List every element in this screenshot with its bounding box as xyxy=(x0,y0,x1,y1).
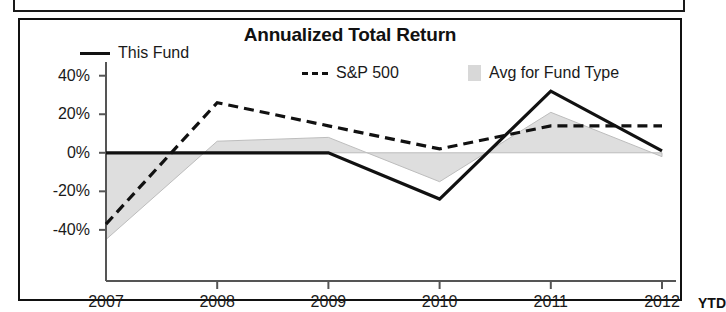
plot-area: 40%20%0%-20%-40%200720082009201020112012… xyxy=(20,20,680,299)
x-tick-label-2012: 2012 xyxy=(627,293,697,311)
y-tick-label: 0% xyxy=(34,144,90,162)
x-tick-label-2007: 2007 xyxy=(71,293,141,311)
x-tick-label-2008: 2008 xyxy=(182,293,252,311)
y-tick-label: -20% xyxy=(34,182,90,200)
x-tick-label-2011: 2011 xyxy=(516,293,586,311)
y-tick-label: -40% xyxy=(34,221,90,239)
y-tick-label: 40% xyxy=(34,67,90,85)
ytd-label: YTD xyxy=(698,295,726,311)
y-tick-label: 20% xyxy=(34,105,90,123)
x-tick-label-2009: 2009 xyxy=(293,293,363,311)
top-panel-fragment xyxy=(13,0,685,12)
chart-svg xyxy=(20,20,680,299)
x-tick-label-2010: 2010 xyxy=(405,293,475,311)
annualized-total-return-panel: Annualized Total Return This Fund S&P 50… xyxy=(18,18,682,301)
